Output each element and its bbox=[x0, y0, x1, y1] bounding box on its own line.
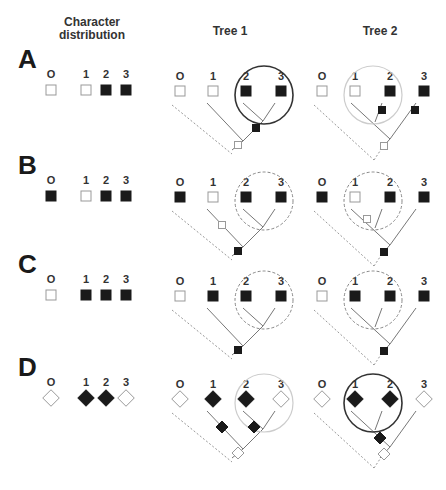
row-c-tree1-branch-3 bbox=[263, 308, 275, 326]
row-a-tree1-label-1: 1 bbox=[210, 70, 216, 82]
row-c-dist-label-2: 2 bbox=[103, 273, 109, 285]
row-a-dist-label-O: O bbox=[47, 68, 56, 80]
row-c-dist-label-O: O bbox=[47, 273, 56, 285]
row-d-tree2-tip-3-diamond-icon bbox=[416, 391, 433, 408]
row-c-tree2-branch-2 bbox=[375, 308, 382, 327]
row-c-tree1-change-root-square-icon bbox=[235, 347, 242, 354]
row-c-tree1-stem-23 bbox=[243, 326, 263, 346]
row-d-tree2-root-dash bbox=[374, 456, 382, 468]
row-b-tree1-tip-2-square-icon bbox=[241, 192, 251, 202]
row-c-tree1-tip-3-square-icon bbox=[276, 291, 286, 301]
row-b-tree2-tip-3-square-icon bbox=[419, 192, 429, 202]
row-c-tree2-change-root-square-icon bbox=[381, 348, 388, 355]
row-c-tree2-label-2: 2 bbox=[387, 275, 393, 287]
row-b-tree2-branch-2 bbox=[375, 209, 382, 228]
row-c-tree2-tip-3-square-icon bbox=[419, 291, 429, 301]
row-d-dist-label-1: 1 bbox=[83, 376, 89, 388]
row-b-tree2-label-3: 3 bbox=[421, 176, 427, 188]
row-c-dist-1-square-icon bbox=[81, 290, 91, 300]
row-b-tree2-branch-1 bbox=[351, 209, 390, 245]
row-c-tree2-label-O: O bbox=[318, 275, 327, 287]
row-d-dist-3-diamond-icon bbox=[118, 390, 135, 407]
row-b-dist-O-square-icon bbox=[46, 191, 56, 201]
row-b-tree1-branch-3 bbox=[263, 209, 275, 227]
row-a-tree1-tip-2-square-icon bbox=[241, 86, 251, 96]
row-a-tree2-change-branch-2-square-icon bbox=[379, 107, 386, 114]
row-a-dist-label-2: 2 bbox=[103, 68, 109, 80]
row-c-tree1-label-O: O bbox=[176, 275, 185, 287]
row-b-tree1-tip-O-square-icon bbox=[175, 192, 185, 202]
row-d-tree2-branch-3 bbox=[390, 411, 416, 447]
row-b-tree1-tip-1-square-icon bbox=[208, 192, 218, 202]
row-a-dist-1-square-icon bbox=[81, 85, 91, 95]
row-d-tree1-tip-O-diamond-icon bbox=[172, 391, 189, 408]
row-a-tree2-label-3: 3 bbox=[421, 70, 427, 82]
row-b-tree2-label-O: O bbox=[318, 176, 327, 188]
row-a-dist-O-square-icon bbox=[46, 85, 56, 95]
row-c-dist-3-square-icon bbox=[121, 290, 131, 300]
row-b-tree2-branch-3 bbox=[390, 209, 416, 245]
row-b-tree2-change-root-square-icon bbox=[381, 249, 388, 256]
row-a-dist-3-square-icon bbox=[121, 85, 131, 95]
row-b-dist-3-square-icon bbox=[121, 191, 131, 201]
row-d-tree1-branch-O bbox=[172, 413, 232, 462]
row-c-tree1-tip-2-square-icon bbox=[241, 291, 251, 301]
row-d-dist-label-2: 2 bbox=[103, 376, 109, 388]
row-a-tree1-tip-3-square-icon bbox=[276, 86, 286, 96]
row-c-tree2-branch-O bbox=[314, 310, 374, 365]
row-b-dist-label-3: 3 bbox=[123, 174, 129, 186]
row-d-dist-1-diamond-icon bbox=[78, 390, 95, 407]
row-a-dist-label-3: 3 bbox=[123, 68, 129, 80]
row-b-dist-label-1: 1 bbox=[83, 174, 89, 186]
row-d-dist-label-3: 3 bbox=[123, 376, 129, 388]
row-a-tree2-branch-O bbox=[314, 105, 374, 160]
row-b-tree1-label-3: 3 bbox=[278, 176, 284, 188]
row-a-tree2-tip-3-square-icon bbox=[419, 86, 429, 96]
row-d-tree2-branch-2 bbox=[375, 411, 382, 430]
row-a-tree2-change-root-square-icon bbox=[381, 143, 388, 150]
row-d-tree2-change-root-diamond-icon bbox=[378, 448, 390, 460]
row-c-dist-label-3: 3 bbox=[123, 273, 129, 285]
row-d-tree1-tip-1-diamond-icon bbox=[205, 391, 222, 408]
row-d-tree2-tip-O-diamond-icon bbox=[314, 391, 331, 408]
row-d-tree2-branch-O bbox=[314, 413, 374, 468]
row-b-tree1-stem-23 bbox=[243, 227, 263, 247]
row-b-tree2-change-branch-1-square-icon bbox=[364, 216, 371, 223]
row-b-tree1-label-1: 1 bbox=[210, 176, 216, 188]
row-c-tree2-tip-2-square-icon bbox=[385, 291, 395, 301]
row-b-tree2-tip-1-square-icon bbox=[350, 192, 360, 202]
row-d-tree2-label-O: O bbox=[318, 378, 327, 390]
row-d-dist-O-diamond-icon bbox=[43, 390, 60, 407]
row-b-tree1-tip-3-square-icon bbox=[276, 192, 286, 202]
row-a-tree1-change-clade-23-stem-square-icon bbox=[253, 125, 260, 132]
row-b-tree1-change-root-square-icon bbox=[235, 248, 242, 255]
row-a-tree2-change-branch-3-square-icon bbox=[412, 107, 419, 114]
row-a-tree1-branch-3 bbox=[263, 103, 275, 121]
row-c-tree1-branch-O bbox=[172, 310, 232, 359]
row-c-tree1-branch-1 bbox=[207, 308, 243, 346]
row-b-tree2-tip-2-square-icon bbox=[385, 192, 395, 202]
row-d-tree2-tip-2-diamond-icon bbox=[382, 391, 399, 408]
row-d-tree1-label-1: 1 bbox=[210, 378, 216, 390]
row-c-dist-2-square-icon bbox=[101, 290, 111, 300]
row-a-dist-label-1: 1 bbox=[83, 68, 89, 80]
row-b-tree1-branch-2 bbox=[243, 209, 263, 227]
row-c-tree1-tip-O-square-icon bbox=[175, 291, 185, 301]
row-a-dist-2-square-icon bbox=[101, 85, 111, 95]
row-c-dist-label-1: 1 bbox=[83, 273, 89, 285]
row-a-tree2-label-O: O bbox=[318, 70, 327, 82]
row-c-tree2-branch-3 bbox=[390, 308, 416, 344]
row-b-tree1-branch-O bbox=[172, 211, 232, 260]
row-a-tree1-change-root-square-icon bbox=[235, 142, 242, 149]
row-d-tree1-tip-3-diamond-icon bbox=[273, 391, 290, 408]
row-b-dist-label-2: 2 bbox=[103, 174, 109, 186]
row-d-tree1-label-O: O bbox=[176, 378, 185, 390]
row-b-tree2-label-2: 2 bbox=[387, 176, 393, 188]
row-a-tree1-tip-1-square-icon bbox=[208, 86, 218, 96]
row-a-tree1-tip-O-square-icon bbox=[175, 86, 185, 96]
row-d-tree1-branch-3 bbox=[263, 411, 275, 429]
row-c-tree1-tip-1-square-icon bbox=[208, 291, 218, 301]
row-a-tree1-branch-O bbox=[172, 105, 232, 154]
row-d-dist-2-diamond-icon bbox=[98, 390, 115, 407]
row-d-tree2-label-3: 3 bbox=[421, 378, 427, 390]
